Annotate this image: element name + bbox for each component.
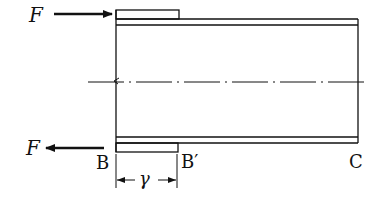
bottom-sleeve	[116, 143, 178, 152]
point-b-label: B	[96, 154, 109, 172]
dimension-r-label: γ	[139, 170, 150, 188]
force-bottom-label: F	[26, 138, 40, 158]
force-top-label: F	[29, 5, 43, 25]
point-c-label: C	[349, 153, 363, 171]
diagram-canvas: F F B B′ C γ	[0, 0, 389, 198]
top-sleeve	[116, 10, 179, 19]
point-b-prime-label: B′	[181, 153, 198, 171]
tube	[116, 10, 358, 152]
